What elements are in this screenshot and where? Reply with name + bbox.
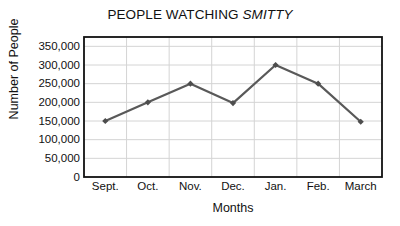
axes-frame xyxy=(84,37,382,177)
chart-container: PEOPLE WATCHING SMITTY Number of People … xyxy=(0,0,400,226)
plot-frame xyxy=(84,37,382,177)
series-line xyxy=(105,65,360,122)
data-point-marker xyxy=(102,118,108,124)
data-line xyxy=(105,65,360,122)
data-markers xyxy=(102,62,364,125)
grid-lines xyxy=(84,37,382,177)
plot-area xyxy=(0,0,400,226)
data-point-marker xyxy=(145,99,151,105)
